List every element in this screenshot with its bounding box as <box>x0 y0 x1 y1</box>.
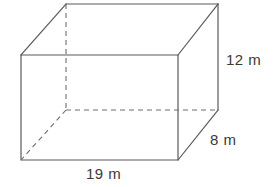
receding-edge-top-right <box>178 4 218 55</box>
height-dimension-label: 12 m <box>226 52 261 68</box>
prism-drawing <box>0 0 274 187</box>
depth-dimension-label: 8 m <box>210 132 237 148</box>
hidden-receding-edge-bottom-left <box>21 110 66 160</box>
hidden-edges <box>21 4 218 160</box>
prism-figure: 12 m 8 m 19 m <box>0 0 274 187</box>
receding-edge-top-left <box>21 4 66 55</box>
width-dimension-label: 19 m <box>86 166 121 182</box>
visible-edges <box>21 4 218 160</box>
front-face-edges <box>21 55 178 160</box>
